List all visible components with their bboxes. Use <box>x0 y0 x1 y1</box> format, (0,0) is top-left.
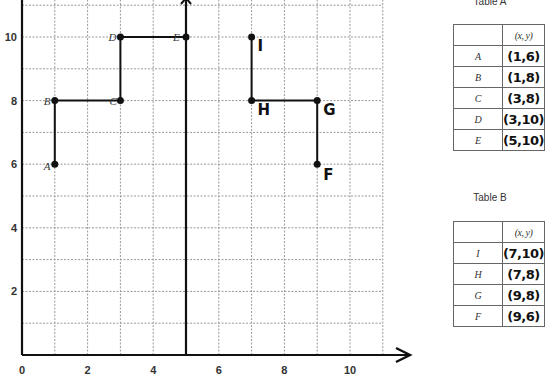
point-name-cell: G <box>454 285 503 306</box>
coordinate-cell: (3,8) <box>503 88 545 109</box>
table-b-header-row: (x, y) <box>454 222 545 243</box>
header-xy-cell: (x, y) <box>503 25 545 46</box>
x-tick-label: 8 <box>281 364 287 376</box>
point-b-label: B <box>44 95 51 107</box>
table-a-header-row: (x, y) <box>454 25 545 46</box>
point-name-cell: C <box>454 88 503 109</box>
point-name-cell: E <box>454 130 503 151</box>
header-blank-cell <box>454 222 503 243</box>
coordinate-cell: (3,10) <box>503 109 545 130</box>
point-e-label: E <box>172 31 180 43</box>
y-tick-label: 6 <box>11 158 17 170</box>
table-a: (x, y)A(1,6)B(1,8)C(3,8)D(3,10)E(5,10) <box>453 24 545 151</box>
point-i-label: I <box>258 37 264 55</box>
coordinate-cell: (1,8) <box>503 67 545 88</box>
point-g-marker <box>314 97 321 104</box>
table-row: C(3,8) <box>454 88 545 109</box>
table-row: D(3,10) <box>454 109 545 130</box>
point-g-label: G <box>323 101 335 119</box>
point-h-marker <box>248 97 255 104</box>
point-f-label: F <box>323 166 333 184</box>
coordinate-cell: (9,8) <box>503 285 545 306</box>
y-tick-label: 2 <box>11 285 17 297</box>
x-tick-label: 6 <box>216 364 222 376</box>
tick-labels: 0246810246810 <box>5 31 356 376</box>
point-name-cell: H <box>454 264 503 285</box>
y-tick-label: 8 <box>11 95 17 107</box>
points: ABCDEIHGF <box>43 31 336 184</box>
point-a-label: A <box>43 160 51 172</box>
point-name-cell: I <box>454 243 503 264</box>
point-name-cell: F <box>454 306 503 327</box>
point-d-label: D <box>107 31 116 43</box>
x-tick-label: 0 <box>19 364 25 376</box>
x-tick-label: 2 <box>85 364 91 376</box>
table-b: (x, y)I(7,10)H(7,8)G(9,8)F(9,6) <box>453 221 545 327</box>
point-name-cell: B <box>454 67 503 88</box>
point-e-marker <box>183 34 190 41</box>
y-tick-label: 4 <box>11 222 18 234</box>
table-b-title: Table B <box>440 192 540 203</box>
table-row: F(9,6) <box>454 306 545 327</box>
point-f-marker <box>314 161 321 168</box>
point-i-marker <box>248 34 255 41</box>
coordinate-grid: 0246810246810 ABCDEIHGF <box>0 0 420 382</box>
point-c-label: C <box>109 95 117 107</box>
table-row: H(7,8) <box>454 264 545 285</box>
header-blank-cell <box>454 25 503 46</box>
x-tick-label: 10 <box>344 364 356 376</box>
table-row: A(1,6) <box>454 46 545 67</box>
point-d-marker <box>117 34 124 41</box>
point-c-marker <box>117 97 124 104</box>
header-xy-cell: (x, y) <box>503 222 545 243</box>
table-row: E(5,10) <box>454 130 545 151</box>
coordinate-cell: (7,8) <box>503 264 545 285</box>
axes <box>22 0 410 362</box>
point-name-cell: D <box>454 109 503 130</box>
coordinate-cell: (9,6) <box>503 306 545 327</box>
y-tick-label: 10 <box>5 31 17 43</box>
table-a-title: Table A <box>440 0 540 7</box>
table-row: G(9,8) <box>454 285 545 306</box>
point-h-label: H <box>258 101 271 119</box>
coordinate-cell: (7,10) <box>503 243 545 264</box>
table-row: B(1,8) <box>454 67 545 88</box>
coordinate-cell: (1,6) <box>503 46 545 67</box>
coordinate-cell: (5,10) <box>503 130 545 151</box>
table-row: I(7,10) <box>454 243 545 264</box>
point-b-marker <box>51 97 58 104</box>
x-tick-label: 4 <box>150 364 157 376</box>
point-name-cell: A <box>454 46 503 67</box>
point-a-marker <box>51 161 58 168</box>
